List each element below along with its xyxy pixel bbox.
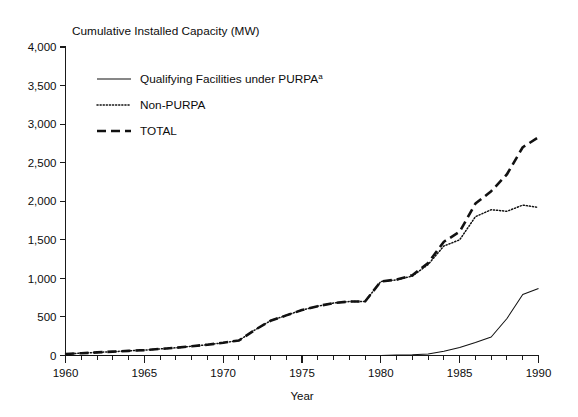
series-line-dashed <box>66 137 539 354</box>
series-line-solid <box>66 288 539 355</box>
chart-container: Cumulative Installed Capacity (MW) 05001… <box>0 0 578 417</box>
plot-title-group: Cumulative Installed Capacity (MW) <box>72 24 260 38</box>
y-tick-label: 3,500 <box>28 80 57 92</box>
x-tick-label: 1980 <box>368 367 394 379</box>
y-tick-label: 4,000 <box>28 41 57 53</box>
x-tick-label: 1985 <box>447 367 473 379</box>
chart-legend: Qualifying Facilities under PURPAaNon-PU… <box>97 72 323 139</box>
y-tick-label: 1,500 <box>28 234 57 246</box>
x-tick-label: 1965 <box>132 367 158 379</box>
x-axis-title: Year <box>290 390 313 402</box>
y-axis: 05001,0001,5002,0002,5003,0003,5004,000 <box>28 41 66 362</box>
x-tick-label: 1970 <box>210 367 236 379</box>
page-title: Cumulative Installed Capacity (MW) <box>72 24 260 38</box>
x-tick-label: 1960 <box>53 367 79 379</box>
y-tick-label: 2,000 <box>28 195 57 207</box>
x-tick-label: 1975 <box>289 367 315 379</box>
y-tick-label: 1,000 <box>28 273 57 285</box>
x-axis: 1960196519701975198019851990 <box>53 356 552 379</box>
x-tick-label: 1990 <box>526 367 552 379</box>
legend-item-label: TOTAL <box>140 124 177 138</box>
legend-item-label: Qualifying Facilities under PURPAa <box>140 72 323 87</box>
series-layer <box>66 137 539 355</box>
y-tick-label: 0 <box>50 350 56 362</box>
y-tick-label: 500 <box>37 311 56 323</box>
y-tick-label: 3,000 <box>28 118 57 130</box>
legend-item-label: Non-PURPA <box>140 98 205 112</box>
chart-canvas: Cumulative Installed Capacity (MW) 05001… <box>0 0 578 417</box>
y-tick-label: 2,500 <box>28 157 57 169</box>
series-line-dotted <box>66 205 539 354</box>
